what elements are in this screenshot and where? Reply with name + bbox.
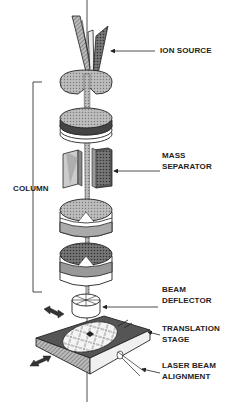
translation-arrow-front-icon [30,356,51,366]
mass-separator-label-line2: SEPARATOR [162,162,212,172]
column-label: COLUMN [13,184,49,194]
laser-beam-alignment-label-line2: ALIGNMENT [162,372,210,382]
fib-diagram: ION SOURCE COLUMN MASS SEPARATOR BEAM DE… [0,0,232,402]
translation-arrow-back-icon [44,306,64,318]
translation-stage-label-line1: TRANSLATION [162,324,220,334]
beam-deflector-icon [72,294,100,318]
lens-2-icon [60,108,112,143]
ion-source-icon [72,16,108,74]
lens-3-icon [60,199,112,237]
mass-separator-label-line1: MASS [162,151,186,161]
translation-stage-label-line2: STAGE [162,335,189,345]
beam-deflector-label-line2: DEFLECTOR [162,296,212,306]
beam-deflector-label-line1: BEAM [162,285,186,295]
diagram-canvas [0,0,232,402]
laser-beam-leader [142,369,160,373]
lens-4-icon [60,243,112,286]
laser-beam-alignment-label-line1: LASER BEAM [162,361,216,371]
ion-source-label: ION SOURCE [160,46,212,56]
translation-stage-icon [36,316,150,376]
